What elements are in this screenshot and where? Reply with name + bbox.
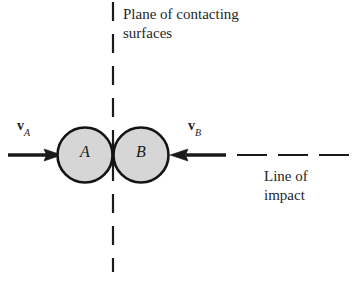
line-of-impact-label-line2: impact bbox=[264, 187, 305, 203]
body-a-letter: A bbox=[70, 143, 100, 161]
line-of-impact-label: Line ofimpact bbox=[264, 167, 308, 205]
velocity-b-label: vB bbox=[188, 118, 201, 136]
velocity-a-label: vA bbox=[17, 118, 30, 136]
velocity-b-arrow bbox=[170, 149, 226, 161]
velocity-b-symbol: v bbox=[188, 118, 195, 133]
velocity-a-arrow bbox=[8, 149, 62, 161]
plane-of-contact-label-line2: surfaces bbox=[123, 25, 172, 41]
line-of-impact-label-line1: Line of bbox=[264, 168, 308, 184]
velocity-a-symbol: v bbox=[17, 118, 24, 133]
body-b-letter: B bbox=[126, 143, 156, 161]
impact-diagram: Plane of contactingsurfaces Line ofimpac… bbox=[0, 0, 364, 289]
plane-of-contact-label-line1: Plane of contacting bbox=[123, 6, 239, 22]
plane-of-contact-label: Plane of contactingsurfaces bbox=[123, 5, 239, 43]
diagram-canvas bbox=[0, 0, 364, 289]
velocity-b-subscript: B bbox=[195, 127, 201, 138]
velocity-a-subscript: A bbox=[24, 127, 30, 138]
